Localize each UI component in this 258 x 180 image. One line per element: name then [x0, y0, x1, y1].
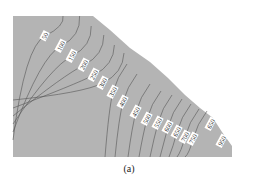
figure-caption: (a) — [0, 163, 258, 174]
contour-plot: 5010015020025030035040045050055060065070… — [0, 0, 258, 180]
